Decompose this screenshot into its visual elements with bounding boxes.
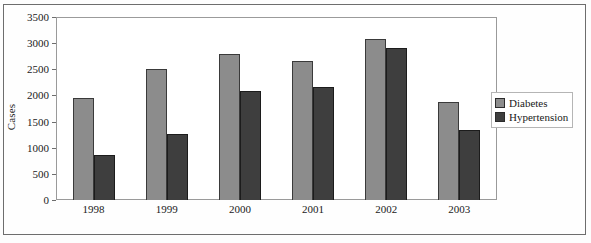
y-tick-mark [52,200,56,201]
x-tick-label: 2001 [277,203,350,221]
bar-group [277,18,350,200]
y-tick-label: 3500 [0,11,56,23]
bar-group [57,18,130,200]
legend: DiabetesHypertension [491,92,573,128]
legend-item-hypertension: Hypertension [495,110,568,124]
bar-hypertension-2002 [386,48,407,200]
y-axis-ticks: 0500100015002000250030003500 [0,17,56,200]
bar-diabetes-2001 [292,61,313,200]
bar-diabetes-1999 [146,69,167,200]
legend-item-diabetes: Diabetes [495,96,568,110]
x-tick-label: 2002 [350,203,423,221]
y-tick-label: 500 [0,168,56,180]
bar-group [130,18,203,200]
x-tick-label: 2000 [203,203,276,221]
bar-hypertension-2000 [240,91,261,200]
legend-label: Diabetes [509,96,547,110]
x-tick-label: 1999 [130,203,203,221]
bar-hypertension-2001 [313,87,334,200]
bar-group [203,18,276,200]
bar-diabetes-1998 [73,98,94,200]
bar-hypertension-1998 [94,155,115,200]
chart-figure: Cases 0500100015002000250030003500 19981… [0,0,591,243]
bar-groups [57,18,496,200]
bar-hypertension-2003 [459,130,480,200]
y-tick-label: 3000 [0,37,56,49]
x-tick-label: 1998 [57,203,130,221]
bar-group [350,18,423,200]
bar-diabetes-2000 [219,54,240,200]
bar-hypertension-1999 [167,134,188,200]
legend-swatch-icon [495,112,505,122]
y-tick-label: 2500 [0,63,56,75]
bar-diabetes-2003 [438,102,459,200]
x-tick-label: 2003 [423,203,496,221]
x-axis-labels: 199819992000200120022003 [57,203,496,221]
y-tick-label: 1500 [0,116,56,128]
bar-diabetes-2002 [365,39,386,200]
legend-label: Hypertension [509,110,568,124]
y-tick-label: 0 [0,194,56,206]
bar-group [423,18,496,200]
legend-swatch-icon [495,98,505,108]
y-tick-label: 1000 [0,142,56,154]
y-tick-label: 2000 [0,89,56,101]
